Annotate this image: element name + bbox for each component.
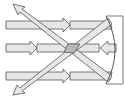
reflected-ray-lower — [13, 18, 112, 95]
concave-mirror-ray-diagram — [0, 0, 125, 99]
reflected-ray-upper — [13, 4, 112, 82]
